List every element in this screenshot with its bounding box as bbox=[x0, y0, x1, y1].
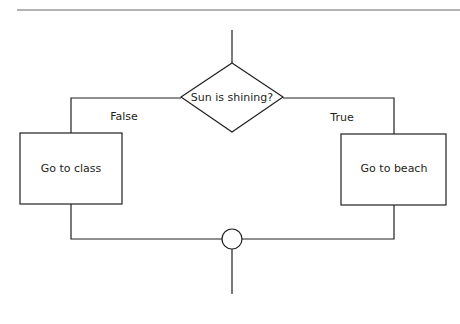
merge-circle bbox=[222, 229, 242, 249]
false-branch-label: False bbox=[110, 110, 138, 123]
true-branch-label: True bbox=[330, 111, 353, 124]
process-right-label: Go to beach bbox=[361, 162, 428, 175]
process-left-label: Go to class bbox=[41, 162, 102, 175]
merge-left-connector bbox=[71, 204, 222, 239]
merge-right-connector bbox=[242, 205, 394, 239]
decision-label: Sun is shining? bbox=[191, 91, 273, 104]
